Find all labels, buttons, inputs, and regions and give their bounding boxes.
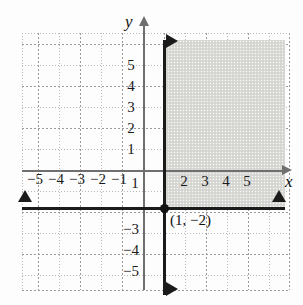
x-tick-label-neg1: −1 xyxy=(111,172,127,187)
y-tick-label-5: 5 xyxy=(124,58,138,73)
vertex-point-dot xyxy=(160,204,169,213)
x-tick-label-neg4: −4 xyxy=(48,172,64,187)
gridline-vertical xyxy=(22,33,23,290)
y-tick-label-1: 1 xyxy=(124,142,138,157)
gridline-vertical xyxy=(59,33,60,290)
y-axis-line xyxy=(143,24,145,290)
boundary-arrow-top-right-icon xyxy=(166,34,178,48)
y-tick-label-3: 3 xyxy=(124,100,138,115)
gridline-horizontal xyxy=(22,290,290,291)
y-axis-label: y xyxy=(125,12,133,32)
x-tick-label-neg3: −3 xyxy=(69,172,85,187)
boundary-arrow-right-up-icon xyxy=(272,190,286,202)
boundary-arrow-left-up-icon xyxy=(18,190,32,202)
boundary-line-vertical xyxy=(163,40,166,295)
x-tick-label-3: 3 xyxy=(199,174,211,189)
y-tick-label-neg5: −5 xyxy=(122,264,140,279)
x-tick-label-2: 2 xyxy=(178,174,190,189)
x-tick-label-neg5: −5 xyxy=(27,172,43,187)
y-tick-label-neg3: −3 xyxy=(122,222,140,237)
y-tick-label-2: 2 xyxy=(124,121,138,136)
boundary-arrow-bottom-right-icon xyxy=(166,282,178,296)
boundary-line-horizontal xyxy=(22,207,285,210)
gridline-vertical xyxy=(289,33,290,290)
gridline-horizontal xyxy=(22,212,290,213)
vertex-point-label: (1, −2) xyxy=(170,212,211,229)
gridline-horizontal xyxy=(22,33,290,34)
x-axis-label: x xyxy=(285,172,293,192)
y-axis-arrow-icon xyxy=(139,16,149,26)
y-tick-label-neg4: −4 xyxy=(122,243,140,258)
x-tick-label-4: 4 xyxy=(220,174,232,189)
y-tick-label-neg1: 1 xyxy=(128,176,142,191)
gridline-horizontal xyxy=(22,254,290,255)
gridline-horizontal xyxy=(22,275,290,276)
x-tick-label-neg2: −2 xyxy=(90,172,106,187)
gridline-vertical xyxy=(38,33,39,290)
y-tick-label-4: 4 xyxy=(124,79,138,94)
gridline-vertical xyxy=(80,33,81,290)
coordinate-plane-figure: y x −5 −4 −3 −2 −1 2 3 4 5 5 4 3 2 1 1 −… xyxy=(0,0,303,305)
gridline-vertical xyxy=(101,33,102,290)
gridline-horizontal xyxy=(22,233,290,234)
x-tick-label-5: 5 xyxy=(241,174,253,189)
